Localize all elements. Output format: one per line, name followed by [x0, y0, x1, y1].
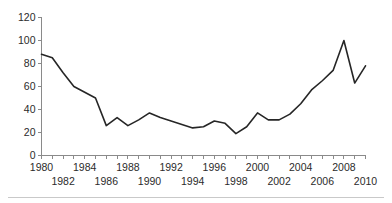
x-tick-label-1990: 1990: [138, 175, 162, 187]
x-tick-label-1980: 1980: [30, 161, 54, 173]
y-tick-label-120: 120: [18, 11, 36, 23]
chart-canvas: 020406080100120 198019841988199219962000…: [0, 0, 392, 203]
y-tick-label-0: 0: [30, 149, 36, 161]
x-tick-label-2006: 2006: [311, 175, 335, 187]
y-tick-marks: [38, 18, 42, 156]
x-tick-label-1988: 1988: [116, 161, 140, 173]
x-tick-label-1996: 1996: [203, 161, 227, 173]
x-tick-label-1982: 1982: [51, 175, 75, 187]
y-axis-group: 020406080100120: [18, 11, 42, 161]
x-tick-marks: [42, 156, 366, 160]
x-tick-label-1992: 1992: [159, 161, 183, 173]
y-tick-label-20: 20: [24, 126, 36, 138]
x-tick-label-1994: 1994: [181, 175, 205, 187]
x-tick-label-2004: 2004: [289, 161, 313, 173]
y-tick-label-40: 40: [24, 103, 36, 115]
data-series-line: [42, 41, 366, 134]
line-chart: 020406080100120 198019841988199219962000…: [0, 0, 392, 203]
x-tick-label-1984: 1984: [73, 161, 97, 173]
x-tick-label-2008: 2008: [332, 161, 356, 173]
x-tick-label-1986: 1986: [95, 175, 119, 187]
x-tick-labels-row-lower: 19821986199019941998200220062010: [51, 175, 377, 187]
y-tick-label-100: 100: [18, 34, 36, 46]
x-tick-label-2010: 2010: [354, 175, 378, 187]
y-tick-label-80: 80: [24, 57, 36, 69]
plot-area: [42, 41, 366, 134]
x-tick-labels-row-upper: 19801984198819921996200020042008: [30, 161, 356, 173]
x-tick-label-1998: 1998: [224, 175, 248, 187]
x-tick-label-2002: 2002: [267, 175, 291, 187]
y-tick-labels: 020406080100120: [18, 11, 36, 161]
y-tick-label-60: 60: [24, 80, 36, 92]
x-tick-label-2000: 2000: [246, 161, 270, 173]
x-axis-group: 19801984198819921996200020042008 1982198…: [30, 156, 378, 187]
